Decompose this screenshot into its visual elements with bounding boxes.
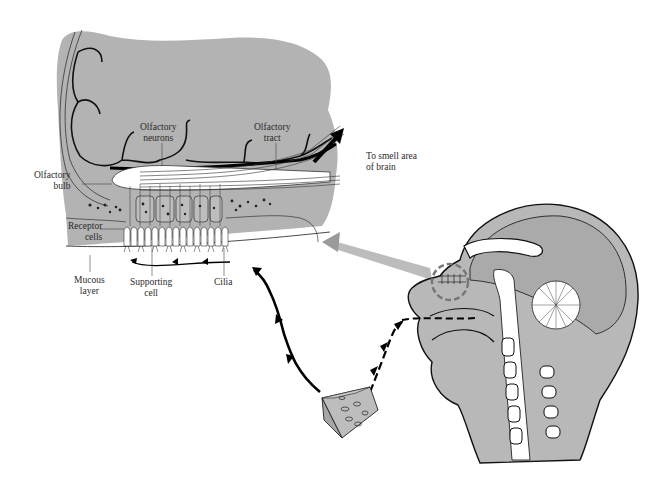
label-line: layer (74, 286, 105, 297)
label-line: of brain (366, 162, 417, 173)
odor-path-to-inset (254, 270, 320, 392)
label-line: Receptor (68, 221, 102, 232)
label-receptor-cells: Receptor cells (68, 221, 102, 243)
label-line: bulb (34, 181, 70, 192)
label-line: Supporting (130, 277, 172, 288)
label-line: tract (254, 133, 290, 144)
label-line: Mucous (74, 275, 105, 286)
olfaction-diagram: Olfactory neurons Olfactory tract To sme… (0, 0, 648, 483)
label-line: Olfactory (140, 122, 176, 133)
label-mucous-layer: Mucous layer (74, 275, 105, 297)
label-olfactory-tract: Olfactory tract (254, 122, 290, 144)
odor-path-arrowheads (252, 267, 294, 364)
label-cilia: Cilia (214, 277, 232, 288)
receptor-cells (124, 227, 228, 246)
label-line: To smell area (366, 151, 417, 162)
label-olfactory-bulb: Olfactory bulb (34, 170, 70, 192)
label-to-smell-area: To smell area of brain (366, 151, 417, 173)
nose-path-arrowheads (370, 320, 404, 376)
label-line: neurons (140, 133, 176, 144)
label-line: Olfactory (34, 170, 70, 181)
label-line: cells (68, 232, 102, 243)
cerebellum-folia (532, 281, 580, 329)
label-supporting-cell: Supporting cell (130, 277, 172, 299)
label-line: Cilia (214, 277, 232, 288)
label-line: cell (130, 288, 172, 299)
magnification-pointer (330, 240, 432, 280)
odor-path-to-nose (370, 322, 402, 392)
cilia (124, 246, 228, 252)
label-olfactory-neurons: Olfactory neurons (140, 122, 176, 144)
label-line: Olfactory (254, 122, 290, 133)
head-section (402, 204, 638, 463)
cheese-wedge (322, 387, 378, 438)
